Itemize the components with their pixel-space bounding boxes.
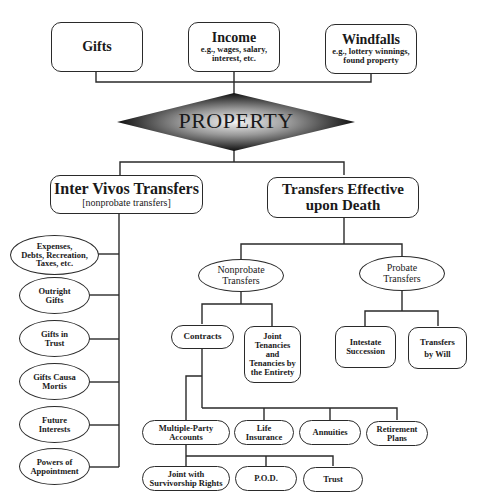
iv-label: Interests xyxy=(39,425,70,434)
inter-vivos-subtitle: [nonprobate transfers] xyxy=(82,198,171,209)
property-label: PROPERTY xyxy=(117,108,355,134)
transfers-upon-death: Transfers Effective upon Death xyxy=(267,177,419,218)
probate-label: Transfers xyxy=(383,274,420,285)
joint-tenancies-label: the Entirety xyxy=(251,368,295,377)
intestate-succession: Intestate Succession xyxy=(335,326,396,368)
source-income-title: Income xyxy=(212,31,256,46)
iv-future-interests: Future Interests xyxy=(19,406,90,443)
nonprobate-transfers: Nonprobate Transfers xyxy=(198,259,284,292)
iv-label: Gifts xyxy=(46,296,64,305)
iv-powers-of-appointment: Powers of Appointment xyxy=(19,448,90,485)
iv-gifts-in-trust: Gifts in Trust xyxy=(19,320,90,357)
upon-death-title: Transfers Effective xyxy=(282,182,404,198)
nonprobate-label: Transfers xyxy=(222,276,259,287)
retirement-label: Plans xyxy=(387,434,407,443)
iv-label: Appointment xyxy=(30,467,78,476)
intestate-label: Succession xyxy=(346,347,385,356)
life-insurance-label: Insurance xyxy=(246,433,282,442)
multiple-party-accounts: Multiple-Party Accounts xyxy=(142,420,230,445)
iv-gifts-causa-mortis: Gifts Causa Mortis xyxy=(19,363,90,400)
trust-label: Trust xyxy=(323,475,343,484)
annuities: Annuities xyxy=(299,420,361,445)
jwsr-label: Survivorship Rights xyxy=(150,479,223,488)
inter-vivos-title: Inter Vivos Transfers xyxy=(54,181,199,198)
upon-death-title: upon Death xyxy=(306,198,381,214)
joint-with-survivorship: Joint with Survivorship Rights xyxy=(142,466,230,491)
by-will-label: by Will xyxy=(424,350,450,359)
contracts-label: Contracts xyxy=(184,332,222,341)
joint-tenancies: Joint Tenancies and Tenancies by the Ent… xyxy=(244,326,301,383)
source-gifts: Gifts xyxy=(51,22,143,72)
transfers-by-will: Transfers by Will xyxy=(408,327,467,369)
probate-transfers: Probate Transfers xyxy=(359,256,445,291)
iv-outright-gifts: Outright Gifts xyxy=(19,277,90,314)
iv-expenses: Expenses, Debts, Recreation, Taxes, etc. xyxy=(10,235,99,275)
source-windfalls: Windfalls e.g., lottery winnings, found … xyxy=(325,24,417,74)
by-will-label: Transfers xyxy=(420,338,455,347)
source-windfalls-sub: found property xyxy=(343,56,398,65)
contracts: Contracts xyxy=(171,325,234,349)
iv-label: Taxes, etc. xyxy=(36,259,73,268)
trust: Trust xyxy=(303,467,363,492)
source-income: Income e.g., wages, salary, interest, et… xyxy=(188,22,280,72)
pod-label: P.O.D. xyxy=(254,474,278,483)
iv-label: Mortis xyxy=(42,382,67,391)
mpa-label: Accounts xyxy=(169,433,203,442)
nonprobate-label: Nonprobate xyxy=(217,265,264,276)
probate-label: Probate xyxy=(387,263,418,274)
annuities-label: Annuities xyxy=(313,428,348,437)
source-windfalls-title: Windfalls xyxy=(342,33,400,48)
pod: P.O.D. xyxy=(235,466,297,491)
life-insurance: Life Insurance xyxy=(234,420,294,445)
source-gifts-title: Gifts xyxy=(82,40,112,55)
retirement-plans: Retirement Plans xyxy=(366,421,428,446)
iv-label: Trust xyxy=(45,339,65,348)
source-income-sub: interest, etc. xyxy=(212,54,256,63)
inter-vivos-transfers: Inter Vivos Transfers [nonprobate transf… xyxy=(50,175,203,214)
